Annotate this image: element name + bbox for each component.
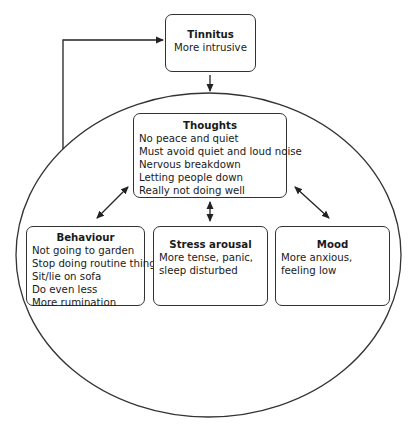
- thoughts-line: Really not doing well: [139, 184, 281, 197]
- thoughts-line: No peace and quiet: [139, 132, 281, 145]
- tinnitus-box: Tinnitus More intrusive: [165, 14, 256, 72]
- thoughts-mood-arrow: [295, 187, 329, 218]
- stress-arousal-line: sleep disturbed: [159, 264, 262, 277]
- thoughts-title: Thoughts: [139, 119, 281, 132]
- behaviour-line: Not going to garden: [32, 244, 139, 257]
- behaviour-line: More rumination: [32, 296, 139, 309]
- behaviour-line: Stop doing routine things: [32, 257, 139, 270]
- stress-arousal-line: More tense, panic,: [159, 251, 262, 264]
- tinnitus-line: More intrusive: [171, 41, 250, 54]
- tinnitus-title: Tinnitus: [171, 28, 250, 41]
- mood-line: feeling low: [281, 264, 384, 277]
- behaviour-line: Sit/lie on sofa: [32, 270, 139, 283]
- thoughts-line: Letting people down: [139, 171, 281, 184]
- thoughts-behaviour-arrow: [97, 187, 128, 218]
- mood-box: Mood More anxious, feeling low: [275, 226, 390, 306]
- mood-title: Mood: [281, 238, 384, 251]
- mood-line: More anxious,: [281, 251, 384, 264]
- thoughts-line: Nervous breakdown: [139, 158, 281, 171]
- behaviour-title: Behaviour: [32, 231, 139, 244]
- behaviour-box: Behaviour Not going to garden Stop doing…: [26, 226, 145, 306]
- behaviour-line: Do even less: [32, 283, 139, 296]
- thoughts-box: Thoughts No peace and quiet Must avoid q…: [133, 113, 287, 198]
- stress-arousal-title: Stress arousal: [159, 238, 262, 251]
- stress-arousal-box: Stress arousal More tense, panic, sleep …: [153, 226, 268, 306]
- thoughts-line: Must avoid quiet and loud noise: [139, 145, 281, 158]
